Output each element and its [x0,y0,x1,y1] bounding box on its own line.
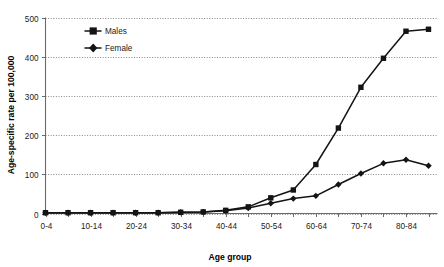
legend-males-square-marker [90,27,97,34]
x-tick-label-40-44: 40-44 [216,222,237,231]
x-tick-label-30-34: 30-34 [171,222,192,231]
data-point-males-80-84 [403,29,408,34]
y-tick-label-0: 0 [34,211,39,220]
legend-female-label: Female [105,44,133,53]
chart-figure: 0100200300400500 0-410-1420-2430-3440-44… [0,0,444,267]
y-tick-label-300: 300 [25,93,39,102]
y-tick-label-200: 200 [25,132,39,141]
age-specific-rate-line-chart: 0100200300400500 0-410-1420-2430-3440-44… [0,0,444,267]
data-point-males-65-69 [336,125,341,130]
data-point-males-85+ [426,27,431,32]
legend-males-label: Males [105,27,127,36]
data-point-males-60-64 [313,162,318,167]
y-tick-label-100: 100 [25,171,39,180]
x-tick-label-20-24: 20-24 [126,222,147,231]
data-point-males-75-79 [381,56,386,61]
data-point-males-55-59 [291,187,296,192]
y-tick-label-400: 400 [25,54,39,63]
x-tick-label-60-64: 60-64 [306,222,327,231]
x-tick-label-0-4: 0-4 [41,222,53,231]
data-point-males-70-74 [358,85,363,90]
data-point-males-50-54 [268,195,273,200]
y-tick-label-500: 500 [25,15,39,24]
x-tick-label-80-84: 80-84 [396,222,417,231]
y-axis-title: Age-specific rate per 100,000 [6,56,16,175]
x-tick-label-50-54: 50-54 [261,222,282,231]
x-tick-label-10-14: 10-14 [81,222,102,231]
x-axis-tick-labels-group: 0-410-1420-2430-3440-4450-5460-6470-7480… [41,222,418,231]
x-tick-label-70-74: 70-74 [351,222,372,231]
x-axis-title: Age group [209,252,252,262]
